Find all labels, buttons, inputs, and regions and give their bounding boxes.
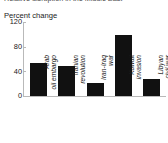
y-tick-label-0: 0: [0, 92, 22, 100]
chart-figure: Relative disruption in the Middle East P…: [0, 0, 168, 143]
x-tick-label-line: invasion: [136, 55, 143, 99]
y-tick-label-80: 80: [0, 43, 22, 51]
x-tick-label-line: revolution: [79, 55, 86, 99]
y-tick-label-40: 40: [0, 68, 22, 76]
x-tick-label-kuwait-invasion: Kuwaitinvasion: [128, 55, 142, 99]
x-tick-label-iranian-revolution: Iranianrevolution: [72, 55, 86, 99]
x-tick-label-line: Iran-Iraq: [100, 55, 107, 99]
x-tick-label-libyan-civil-war: Libyancivil war: [157, 55, 168, 99]
x-tick-label-line: war: [107, 55, 114, 99]
x-tick-label-iran-iraq-war: Iran-Iraqwar: [100, 55, 114, 99]
x-tick-label-line: Iranian: [72, 55, 79, 99]
x-tick-label-line: Libyan: [157, 55, 164, 99]
x-tick-label-arab-oil-embargo: Araboil embargo: [43, 55, 57, 99]
y-tick-label-120: 120: [0, 18, 22, 26]
x-tick-label-line: civil war: [164, 55, 168, 99]
x-tick-label-line: oil embargo: [50, 55, 57, 99]
chart-title: Relative disruption in the Middle East: [4, 0, 168, 3]
